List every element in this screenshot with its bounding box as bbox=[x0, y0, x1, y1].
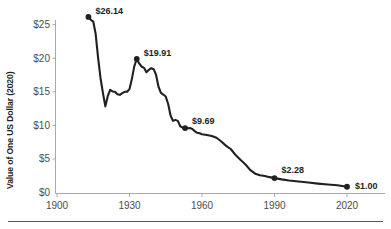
y-axis-title: Value of One US Dollar (2020) bbox=[5, 71, 15, 189]
x-tick-label-1930: 1930 bbox=[118, 200, 141, 211]
data-point-label: $26.14 bbox=[95, 6, 123, 16]
data-point-label: $2.28 bbox=[282, 165, 305, 175]
x-tick-label-2020: 2020 bbox=[336, 200, 359, 211]
x-tick-label-1900: 1900 bbox=[46, 200, 69, 211]
y-tick-label-15: $15 bbox=[33, 86, 50, 97]
y-tick-label-20: $20 bbox=[33, 53, 50, 64]
y-tick-label-0: $0 bbox=[39, 187, 51, 198]
chart-background bbox=[0, 0, 391, 229]
data-point-label: $9.69 bbox=[192, 116, 215, 126]
y-tick-label-10: $10 bbox=[33, 120, 50, 131]
y-tick-label-25: $25 bbox=[33, 19, 50, 30]
data-point-marker bbox=[134, 56, 140, 62]
data-point-label: $1.00 bbox=[355, 181, 378, 191]
value-of-dollar-line-chart: Value of One US Dollar (2020) $0 $5 $10 … bbox=[0, 0, 391, 229]
data-point-marker bbox=[344, 184, 350, 190]
data-point-marker bbox=[182, 125, 188, 131]
y-tick-label-5: $5 bbox=[39, 153, 51, 164]
x-tick-label-1960: 1960 bbox=[191, 200, 214, 211]
data-point-label: $19.91 bbox=[144, 48, 172, 58]
data-point-marker bbox=[86, 14, 92, 20]
x-tick-label-1990: 1990 bbox=[263, 200, 286, 211]
data-point-marker bbox=[272, 175, 278, 181]
